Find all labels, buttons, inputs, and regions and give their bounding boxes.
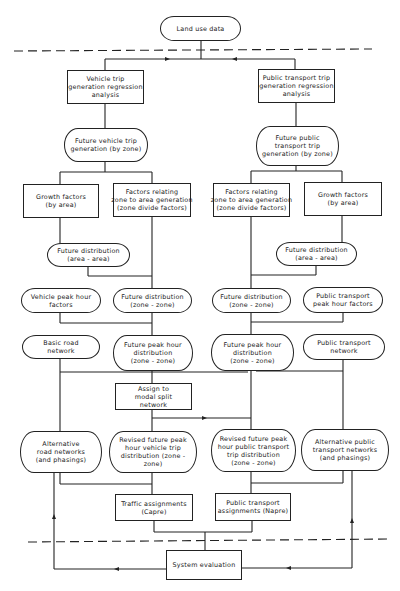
node-label: transport networks xyxy=(313,446,377,454)
node-label: hour vehicle trip xyxy=(125,444,181,452)
node-label: generation regression xyxy=(259,82,333,90)
node-future-vehicle-trip-generation: Future vehicle trip generation (by zone) xyxy=(64,128,148,162)
node-label: network xyxy=(330,347,357,355)
node-label: (zone - zone) xyxy=(230,357,274,365)
node-label: Vehicle peak hour xyxy=(31,293,92,301)
arrow-icon xyxy=(350,518,354,523)
node-label: Future distribution xyxy=(121,293,184,301)
node-label: (and phasings) xyxy=(320,454,370,462)
node-label: analysis xyxy=(92,91,119,99)
node-label: Vehicle trip xyxy=(86,75,124,83)
node-label: network xyxy=(140,401,167,409)
node-label: Revised future peak xyxy=(220,435,288,443)
node-label: Factors relating xyxy=(126,188,179,196)
node-label: (zone divide factors) xyxy=(217,204,287,212)
node-label: Growth factors xyxy=(318,191,368,199)
node-label: (zone - zone) xyxy=(231,459,275,467)
node-vehicle-future-distribution-area: Future distribution (area - area) xyxy=(47,243,130,267)
node-label: Alternative public xyxy=(315,438,375,446)
node-pt-future-peak-hour-distribution: Future peak hour distribution (zone - zo… xyxy=(211,334,294,371)
node-label: (zone - zone) xyxy=(131,357,175,365)
node-label: Land use data xyxy=(177,25,225,33)
node-land-use-data: Land use data xyxy=(160,16,241,41)
node-vehicle-peak-hour-factors: Vehicle peak hour factors xyxy=(21,288,101,313)
node-label: (by area) xyxy=(328,199,359,207)
node-pt-zone-divide-factors: Factors relating zone to area generation… xyxy=(213,183,290,217)
node-assign-modal-split-network: Assign to modal split network xyxy=(115,383,192,410)
arrow-icon xyxy=(52,514,56,519)
node-vehicle-trip-generation-regression: Vehicle trip generation regression analy… xyxy=(67,70,144,104)
node-label: Public transport xyxy=(317,339,371,347)
node-label: factors xyxy=(49,301,72,309)
node-label: (by area) xyxy=(46,201,77,209)
node-label: Public transport trip xyxy=(263,74,331,82)
node-label: Alternative xyxy=(42,440,79,448)
node-basic-road-network: Basic road network xyxy=(22,335,100,359)
node-vehicle-growth-factors: Growth factors (by area) xyxy=(23,184,99,218)
node-label: network xyxy=(47,347,74,355)
node-label: distribution xyxy=(134,349,173,357)
node-label: distribution (zone - xyxy=(121,452,186,460)
node-label: hour public transport xyxy=(218,443,290,451)
arrow-icon xyxy=(114,567,119,571)
node-label: assignments (Napre) xyxy=(218,507,289,515)
node-label: Factors relating xyxy=(225,188,278,196)
node-label: (zone divide factors) xyxy=(117,204,187,212)
node-pt-growth-factors: Growth factors (by area) xyxy=(304,182,382,216)
node-label: Future public xyxy=(275,134,319,142)
node-label: Traffic assignments xyxy=(121,500,187,508)
node-label: Assign to xyxy=(138,385,169,393)
node-label: modal split xyxy=(135,393,173,401)
node-label: (zone - zone) xyxy=(130,301,174,309)
node-label: peak hour factors xyxy=(313,300,373,308)
node-label: Future vehicle trip xyxy=(75,137,137,145)
node-label: generation (by zone) xyxy=(71,145,142,153)
node-label: road networks xyxy=(37,448,85,456)
node-label: transport trip xyxy=(275,142,320,150)
node-pt-future-distribution-zone: Future distribution (zone - zone) xyxy=(212,288,291,313)
node-public-transport-network: Public transport network xyxy=(303,334,385,360)
node-traffic-assignments: Traffic assignments (Capre) xyxy=(115,494,193,521)
node-label: Public transport xyxy=(316,292,370,300)
node-label: (area - area) xyxy=(295,254,337,262)
node-pt-peak-hour-factors: Public transport peak hour factors xyxy=(303,287,383,313)
node-label: generation regression xyxy=(68,83,142,91)
node-label: Basic road xyxy=(43,339,78,347)
node-public-transport-assignments: Public transport assignments (Napre) xyxy=(215,493,291,521)
node-pt-future-distribution-area: Future distribution (area - area) xyxy=(276,242,357,266)
arrow-icon xyxy=(232,57,237,61)
node-label: distribution xyxy=(233,349,272,357)
node-label: Growth factors xyxy=(36,193,86,201)
dashed-separator-bottom xyxy=(28,539,392,542)
node-label: zone) xyxy=(144,460,163,468)
node-label: analysis xyxy=(283,90,310,98)
node-label: Public transport xyxy=(226,499,280,507)
node-system-evaluation: System evaluation xyxy=(166,550,242,580)
node-public-transport-trip-generation-regression: Public transport trip generation regress… xyxy=(258,69,335,103)
node-label: trip distribution xyxy=(227,451,280,459)
node-label: (zone - zone) xyxy=(229,301,273,309)
node-label: System evaluation xyxy=(173,561,236,569)
node-label: (area - area) xyxy=(67,255,109,263)
dashed-separator-top xyxy=(14,49,372,51)
node-vehicle-zone-divide-factors: Factors relating zone to area generation… xyxy=(113,183,191,217)
node-label: zone to area generation xyxy=(211,196,292,204)
node-revised-vehicle-peak-distribution: Revised future peak hour vehicle trip di… xyxy=(109,431,197,473)
node-alternative-pt-networks: Alternative public transport networks (a… xyxy=(301,429,389,471)
node-label: Future distribution xyxy=(57,247,120,255)
node-revised-pt-peak-distribution: Revised future peak hour public transpor… xyxy=(211,429,296,472)
node-future-public-transport-trip-generation: Future public transport trip generation … xyxy=(256,126,339,166)
node-label: (Capre) xyxy=(141,508,166,516)
node-vehicle-future-peak-hour-distribution: Future peak hour distribution (zone - zo… xyxy=(113,335,193,371)
node-label: Future distribution xyxy=(220,293,283,301)
arrow-icon xyxy=(202,416,207,420)
arrow-icon xyxy=(286,566,291,570)
node-label: generation (by zone) xyxy=(262,150,333,158)
node-label: Future peak hour xyxy=(224,341,282,349)
node-label: zone to area generation xyxy=(111,196,192,204)
node-alternative-road-networks: Alternative road networks (and phasings) xyxy=(20,431,102,473)
node-label: Revised future peak xyxy=(119,436,187,444)
node-label: Future distribution xyxy=(285,246,348,254)
node-label: Future peak hour xyxy=(124,341,182,349)
node-label: (and phasings) xyxy=(36,456,86,464)
